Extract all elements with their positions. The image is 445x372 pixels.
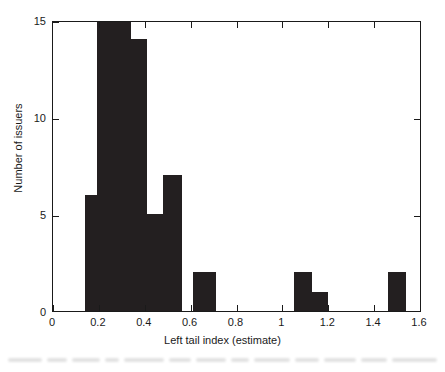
- x-tick-label-1.2: 1.2: [320, 316, 335, 329]
- histogram-bar: [120, 21, 132, 311]
- x-tick-top-1: [282, 22, 283, 28]
- y-tick-label-10: 10: [34, 112, 46, 125]
- histogram-bar: [108, 21, 120, 311]
- histogram-bar: [294, 272, 312, 311]
- histogram-bar: [97, 21, 109, 311]
- x-tick-top-1.4: [374, 22, 375, 28]
- x-tick-0: [53, 305, 54, 311]
- x-tick-top-0.2: [99, 22, 100, 28]
- x-tick-1.2: [328, 305, 329, 311]
- x-tick-0.2: [99, 305, 100, 311]
- y-tick-right-5: [414, 216, 420, 217]
- x-tick-1.6: [420, 305, 421, 311]
- y-tick-10: [53, 119, 59, 120]
- x-tick-0.4: [145, 305, 146, 311]
- x-tick-0.8: [237, 305, 238, 311]
- x-tick-0.6: [191, 305, 192, 311]
- x-tick-label-0.8: 0.8: [228, 316, 243, 329]
- histogram-bar: [85, 195, 97, 311]
- x-tick-label-0.4: 0.4: [136, 316, 151, 329]
- y-tick-label-0: 0: [40, 306, 46, 319]
- y-tick-label-5: 5: [40, 209, 46, 222]
- x-tick-1: [282, 305, 283, 311]
- histogram-bar: [193, 272, 216, 311]
- x-tick-top-0.8: [237, 22, 238, 28]
- caption-fragment: [8, 358, 437, 364]
- x-tick-label-1: 1: [278, 316, 284, 329]
- x-tick-1.4: [374, 305, 375, 311]
- x-tick-label-1.4: 1.4: [365, 316, 380, 329]
- histogram-bar: [163, 175, 181, 311]
- histogram-figure: 0 5 10 15 Number of issuers: [0, 0, 445, 372]
- x-tick-top-0.6: [191, 22, 192, 28]
- histogram-bar: [312, 292, 328, 311]
- y-tick-label-15: 15: [34, 15, 46, 28]
- y-tick-5: [53, 216, 59, 217]
- histogram-bar: [147, 214, 163, 311]
- x-tick-label-1.6: 1.6: [411, 316, 426, 329]
- x-tick-label-0: 0: [49, 316, 55, 329]
- x-tick-label-0.6: 0.6: [182, 316, 197, 329]
- y-axis-label: Number of issuers: [12, 83, 24, 213]
- x-axis-label: Left tail index (estimate): [0, 334, 445, 346]
- x-tick-top-0.4: [145, 22, 146, 28]
- y-tick-right-10: [414, 119, 420, 120]
- plot-area: [52, 21, 421, 312]
- x-tick-top-1.2: [328, 22, 329, 28]
- y-tick-15: [53, 22, 59, 23]
- histogram-bar: [388, 272, 406, 311]
- histogram-bar: [131, 39, 147, 311]
- x-tick-label-0.2: 0.2: [90, 316, 105, 329]
